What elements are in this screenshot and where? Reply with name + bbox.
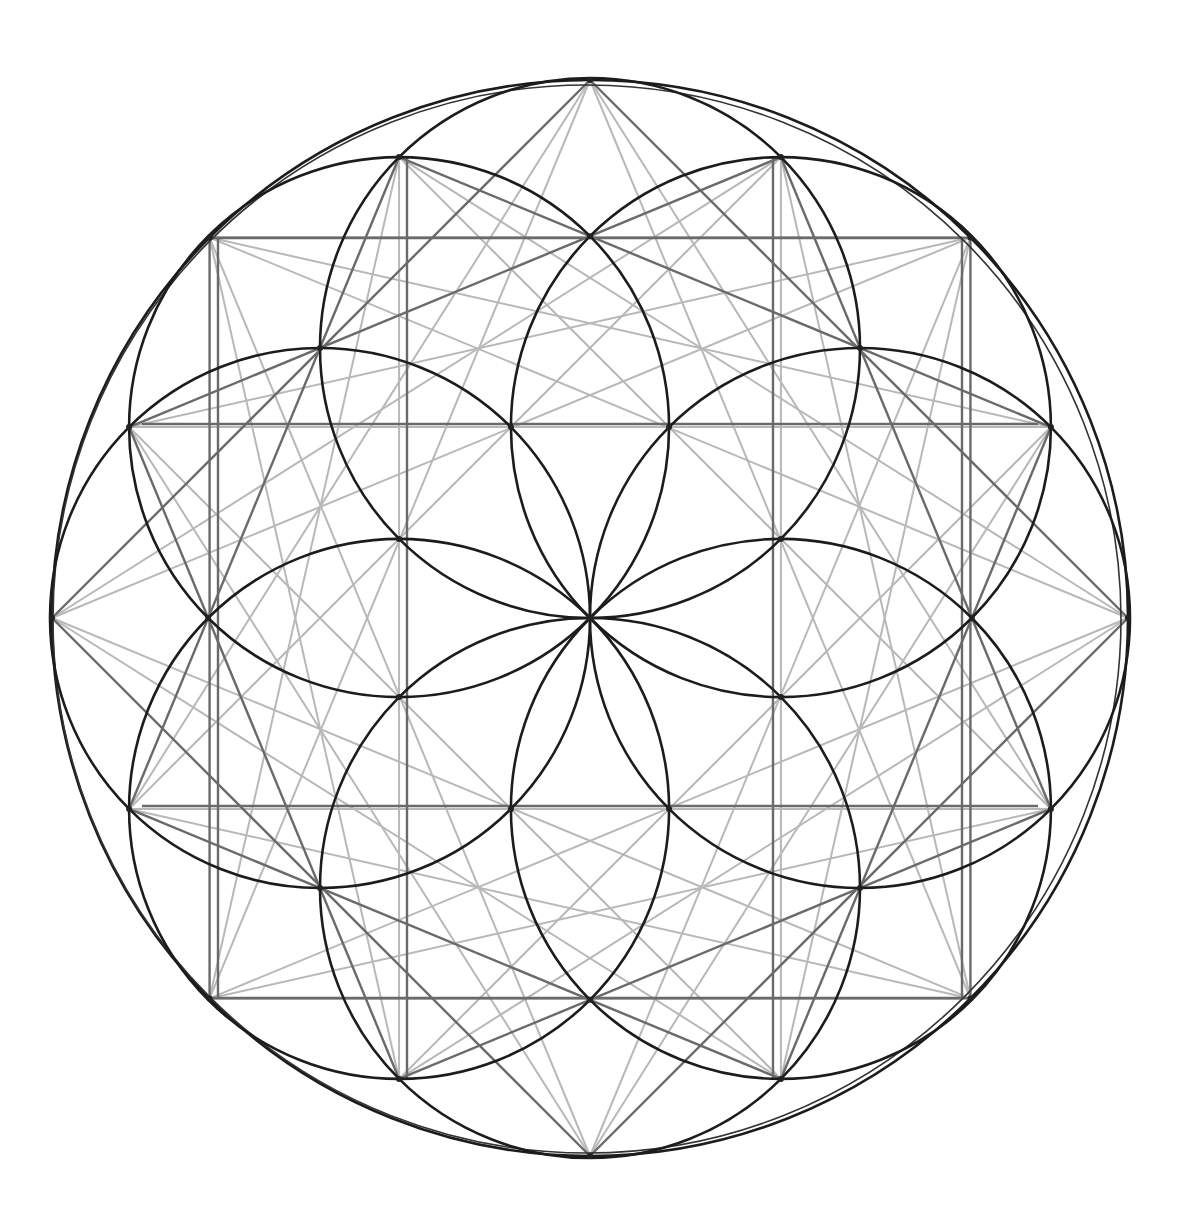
faint-chord	[399, 427, 1051, 1079]
intersection-point	[778, 694, 784, 700]
faint-chord	[399, 618, 1128, 1079]
intersection-point	[778, 154, 784, 160]
intersection-point	[778, 536, 784, 542]
intersection-point	[396, 694, 402, 700]
intersection-point	[587, 1153, 593, 1159]
intersection-point	[49, 615, 55, 621]
faint-chord	[399, 157, 1128, 618]
intersection-point	[587, 233, 593, 239]
intersection-point	[207, 235, 213, 241]
faint-chord	[129, 427, 590, 1156]
faint-chord	[129, 809, 970, 999]
faint-chord	[781, 238, 971, 1079]
intersection-point	[205, 615, 211, 621]
faint-chord	[210, 157, 400, 998]
intersection-point	[778, 1076, 784, 1082]
intersection-points	[49, 77, 1131, 1159]
faint-chord	[590, 80, 1051, 809]
intersection-point	[126, 424, 132, 430]
square-edge	[129, 809, 781, 1079]
faint-chord	[781, 157, 971, 998]
faint-chord	[129, 157, 781, 809]
intersection-point	[396, 1076, 402, 1082]
intersection-point	[396, 536, 402, 542]
faint-chord	[129, 427, 781, 1079]
intersection-point	[1048, 806, 1054, 812]
square-edge	[399, 157, 1051, 427]
faint-chord	[210, 238, 1051, 428]
intersection-point	[317, 345, 323, 351]
square-edge	[399, 809, 1051, 1079]
intersection-point	[396, 154, 402, 160]
faint-chord	[129, 238, 970, 428]
intersection-point	[508, 424, 514, 430]
faint-chord	[52, 157, 781, 618]
intersection-point	[857, 345, 863, 351]
square-edge	[129, 427, 399, 1079]
geometric-drawing	[0, 0, 1177, 1221]
intersection-point	[1048, 424, 1054, 430]
square-edge	[129, 157, 781, 427]
intersection-point	[666, 424, 672, 430]
square-edge	[781, 157, 1051, 809]
intersection-point	[967, 235, 973, 241]
faint-chord	[52, 618, 781, 1079]
intersection-point	[508, 806, 514, 812]
intersection-point	[857, 885, 863, 891]
intersection-point	[126, 806, 132, 812]
faint-chord	[590, 427, 1051, 1156]
square-edge	[781, 427, 1051, 1079]
square-edge	[129, 157, 399, 809]
intersection-point	[317, 885, 323, 891]
faint-chord	[399, 157, 1051, 809]
faint-chord	[210, 809, 1051, 999]
faint-chord	[129, 80, 590, 809]
intersection-point	[587, 615, 593, 621]
intersection-point	[969, 615, 975, 621]
intersection-point	[587, 77, 593, 83]
intersection-point	[666, 806, 672, 812]
faint-chord	[210, 238, 400, 1079]
intersection-point	[967, 995, 973, 1001]
intersection-point	[587, 997, 593, 1003]
intersection-point	[207, 995, 213, 1001]
intersection-point	[1125, 615, 1131, 621]
